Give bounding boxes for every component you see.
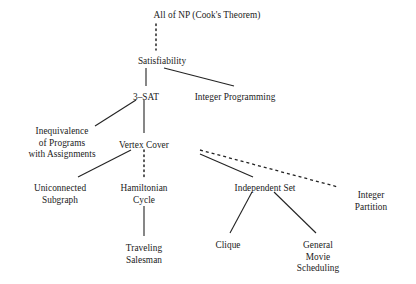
node-inequivalence: Inequivalence of Programs with Assignmen… <box>28 126 95 161</box>
node-hamiltonian-cycle: Hamiltonian Cycle <box>120 183 167 206</box>
edge-3sat-to-inequivalence <box>95 100 136 126</box>
node-traveling-salesman: Traveling Salesman <box>126 243 162 266</box>
edge-sat-to-intprog <box>164 68 234 86</box>
edge-independentset-to-moviescheduling <box>274 192 316 233</box>
node-general-movie-scheduling: General Movie Scheduling <box>297 240 339 275</box>
edge-vertexcover-to-independentset <box>200 154 253 177</box>
edge-vertexcover-to-integerpartition <box>200 150 338 187</box>
node-integer-partition: Integer Partition <box>349 190 394 213</box>
node-uniconnected-subgraph: Uniconnected Subgraph <box>34 183 86 206</box>
edge-independentset-to-clique <box>230 192 252 233</box>
node-independent-set: Independent Set <box>235 183 296 195</box>
node-integer-programming: Integer Programming <box>195 92 276 104</box>
np-reduction-diagram: All of NP (Cook's Theorem)Satisfiability… <box>0 0 416 284</box>
node-all-of-np: All of NP (Cook's Theorem) <box>154 10 261 22</box>
node-vertex-cover: Vertex Cover <box>119 140 169 152</box>
node-satisfiability: Satisfiability <box>138 56 186 68</box>
node-three-sat: 3–SAT <box>133 92 159 104</box>
node-clique: Clique <box>215 240 240 252</box>
